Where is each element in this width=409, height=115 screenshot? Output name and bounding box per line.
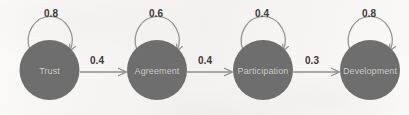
transition-weight-trust-agreement: 0.4 — [90, 55, 104, 66]
self-loop-weight-development: 0.8 — [362, 8, 376, 19]
transition-weight-agreement-participation: 0.4 — [198, 55, 212, 66]
transition-weight-participation-development: 0.3 — [305, 55, 319, 66]
node-label-trust: Trust — [39, 66, 60, 76]
node-label-agreement: Agreement — [135, 66, 180, 76]
self-loop-weight-participation: 0.4 — [255, 8, 269, 19]
node-label-participation: Participation — [238, 66, 289, 76]
self-loop-weight-agreement: 0.6 — [149, 8, 163, 19]
self-loop-weight-trust: 0.8 — [44, 8, 58, 19]
node-label-development: Development — [343, 66, 397, 76]
diagram-canvas: Trust Agreement Participation Developmen… — [0, 0, 409, 115]
